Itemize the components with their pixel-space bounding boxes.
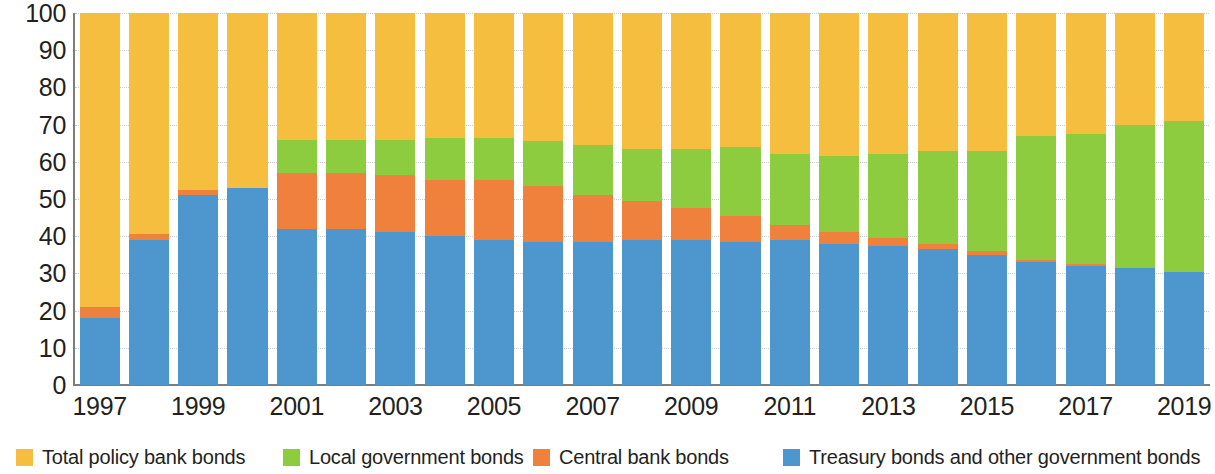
bar-segment[interactable] — [326, 140, 366, 173]
bar-segment[interactable] — [80, 307, 120, 318]
bar-segment[interactable] — [1164, 272, 1204, 385]
bar-segment[interactable] — [277, 173, 317, 229]
bar-segment[interactable] — [868, 238, 908, 245]
bar-segment[interactable] — [622, 240, 662, 385]
bar-column[interactable] — [425, 13, 465, 385]
bar-segment[interactable] — [129, 240, 169, 385]
bar-segment[interactable] — [227, 188, 267, 385]
bar-segment[interactable] — [523, 141, 563, 186]
bar-segment[interactable] — [573, 242, 613, 385]
legend-item[interactable]: Total policy bank bonds — [16, 446, 245, 469]
bar-segment[interactable] — [1066, 266, 1106, 385]
bar-segment[interactable] — [622, 201, 662, 240]
bar-column[interactable] — [1066, 13, 1106, 385]
bar-segment[interactable] — [326, 13, 366, 139]
bar-segment[interactable] — [277, 229, 317, 385]
bar-segment[interactable] — [129, 13, 169, 234]
bar-column[interactable] — [868, 13, 908, 385]
bar-segment[interactable] — [80, 318, 120, 385]
bar-segment[interactable] — [918, 151, 958, 244]
bar-segment[interactable] — [720, 13, 760, 147]
bar-segment[interactable] — [1066, 134, 1106, 264]
bar-segment[interactable] — [375, 140, 415, 175]
bar-segment[interactable] — [1016, 136, 1056, 261]
bar-column[interactable] — [178, 13, 218, 385]
legend-item[interactable]: Treasury bonds and other government bond… — [783, 446, 1200, 469]
bar-segment[interactable] — [868, 246, 908, 386]
bar-segment[interactable] — [425, 13, 465, 138]
bar-column[interactable] — [622, 13, 662, 385]
bar-column[interactable] — [227, 13, 267, 385]
bar-segment[interactable] — [671, 149, 711, 209]
bar-segment[interactable] — [80, 13, 120, 307]
bar-column[interactable] — [1164, 13, 1204, 385]
bar-segment[interactable] — [425, 236, 465, 385]
bar-segment[interactable] — [671, 13, 711, 149]
bar-segment[interactable] — [720, 147, 760, 216]
legend-item[interactable]: Central bank bonds — [533, 446, 729, 469]
bar-segment[interactable] — [1016, 13, 1056, 136]
bar-column[interactable] — [770, 13, 810, 385]
bar-segment[interactable] — [622, 149, 662, 201]
bar-segment[interactable] — [622, 13, 662, 149]
bar-column[interactable] — [573, 13, 613, 385]
bar-segment[interactable] — [523, 186, 563, 242]
bar-segment[interactable] — [178, 195, 218, 385]
bar-segment[interactable] — [375, 232, 415, 385]
bar-segment[interactable] — [819, 232, 859, 243]
bar-segment[interactable] — [573, 145, 613, 195]
bar-column[interactable] — [326, 13, 366, 385]
bar-segment[interactable] — [1115, 125, 1155, 268]
bar-segment[interactable] — [277, 140, 317, 173]
bar-column[interactable] — [1016, 13, 1056, 385]
bar-segment[interactable] — [375, 175, 415, 233]
bar-segment[interactable] — [474, 138, 514, 181]
bar-segment[interactable] — [178, 13, 218, 190]
bar-segment[interactable] — [1066, 13, 1106, 134]
bar-segment[interactable] — [326, 229, 366, 385]
bar-segment[interactable] — [573, 195, 613, 242]
bar-segment[interactable] — [967, 151, 1007, 251]
bar-column[interactable] — [129, 13, 169, 385]
bar-column[interactable] — [375, 13, 415, 385]
bar-segment[interactable] — [819, 244, 859, 385]
bar-segment[interactable] — [474, 240, 514, 385]
bar-segment[interactable] — [1164, 121, 1204, 272]
bar-segment[interactable] — [425, 180, 465, 236]
bar-segment[interactable] — [425, 138, 465, 181]
bar-column[interactable] — [523, 13, 563, 385]
bar-column[interactable] — [1115, 13, 1155, 385]
bar-segment[interactable] — [918, 249, 958, 385]
bar-segment[interactable] — [227, 13, 267, 188]
bar-column[interactable] — [819, 13, 859, 385]
bar-segment[interactable] — [474, 180, 514, 240]
bar-segment[interactable] — [770, 154, 810, 225]
bar-segment[interactable] — [523, 13, 563, 141]
bar-segment[interactable] — [1115, 13, 1155, 125]
bar-segment[interactable] — [967, 13, 1007, 151]
bar-segment[interactable] — [819, 13, 859, 156]
bar-segment[interactable] — [326, 173, 366, 229]
bar-segment[interactable] — [967, 255, 1007, 385]
legend-item[interactable]: Local government bonds — [283, 446, 524, 469]
bar-segment[interactable] — [770, 13, 810, 154]
bar-segment[interactable] — [770, 225, 810, 240]
bar-segment[interactable] — [277, 13, 317, 139]
bar-segment[interactable] — [1016, 262, 1056, 385]
bar-segment[interactable] — [868, 13, 908, 154]
bar-column[interactable] — [80, 13, 120, 385]
bar-segment[interactable] — [523, 242, 563, 385]
bar-segment[interactable] — [720, 216, 760, 242]
bar-segment[interactable] — [918, 13, 958, 151]
bar-segment[interactable] — [573, 13, 613, 145]
bar-column[interactable] — [277, 13, 317, 385]
bar-segment[interactable] — [375, 13, 415, 139]
bar-segment[interactable] — [1115, 268, 1155, 385]
bar-segment[interactable] — [474, 13, 514, 138]
bar-segment[interactable] — [819, 156, 859, 232]
bar-segment[interactable] — [671, 208, 711, 240]
bar-segment[interactable] — [868, 154, 908, 238]
bar-column[interactable] — [474, 13, 514, 385]
bar-column[interactable] — [967, 13, 1007, 385]
bar-segment[interactable] — [770, 240, 810, 385]
